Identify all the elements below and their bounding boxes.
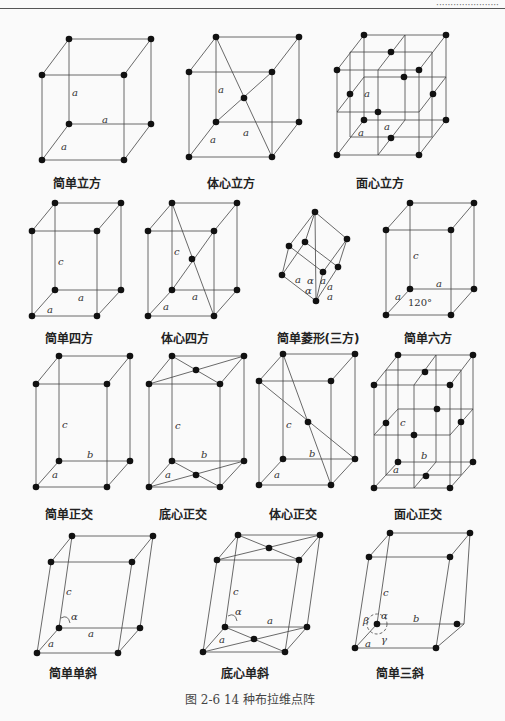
svg-text:β: β [362, 615, 369, 626]
svg-text:a: a [320, 275, 326, 286]
svg-text:c: c [175, 420, 181, 431]
svg-text:a: a [436, 278, 442, 289]
lattice-simple-monoclinic: c α a a [34, 533, 157, 657]
caption-simple-orthorhombic: 简单正交 [45, 505, 93, 522]
svg-text:a: a [165, 469, 171, 480]
lattice-simple-tetragonal: c a a [29, 200, 125, 320]
svg-text:a: a [358, 127, 364, 138]
svg-text:a: a [218, 84, 224, 95]
svg-text:b: b [421, 450, 427, 461]
svg-text:a: a [395, 291, 401, 302]
svg-text:a: a [267, 615, 273, 626]
svg-text:a: a [72, 87, 78, 98]
svg-text:a: a [48, 638, 54, 649]
lattice-base-centered-monoclinic: c α a a [200, 532, 324, 656]
svg-text:α: α [305, 285, 312, 296]
svg-text:a: a [47, 304, 53, 315]
svg-text:b: b [87, 449, 93, 460]
svg-text:a: a [393, 464, 399, 475]
lattice-body-centered-orthorhombic: c b a [256, 351, 359, 489]
svg-text:120°: 120° [408, 297, 432, 308]
lattice-rhombohedral: a α a a α a [279, 209, 351, 305]
lattice-face-centered-orthorhombic: c b a [371, 352, 477, 492]
svg-text:a: a [243, 127, 249, 138]
lattice-simple-cubic: a a a [39, 36, 155, 164]
svg-text:c: c [62, 419, 68, 430]
svg-text:a: a [327, 291, 333, 302]
svg-text:α: α [381, 610, 388, 621]
svg-text:a: a [88, 628, 94, 639]
svg-text:b: b [413, 613, 419, 624]
svg-text:c: c [286, 419, 292, 430]
bravais-lattices-figure: a a a a a a a a a c a a [0, 0, 505, 721]
svg-text:a: a [78, 292, 84, 303]
lattice-hexagonal: c a a 120° [383, 200, 478, 319]
svg-text:a: a [295, 274, 301, 285]
svg-text:a: a [102, 114, 108, 125]
svg-text:a: a [384, 121, 390, 132]
svg-text:c: c [400, 417, 406, 428]
svg-text:b: b [309, 448, 315, 459]
svg-text:c: c [58, 256, 64, 267]
figure-caption: 图 2-6 14 种布拉维点阵 [185, 690, 315, 707]
caption-simple-tetragonal: 简单四方 [45, 329, 93, 346]
svg-text:b: b [201, 449, 207, 460]
svg-text:γ: γ [381, 634, 387, 645]
svg-text:a: a [274, 469, 280, 480]
caption-triclinic: 简单三斜 [376, 664, 424, 681]
caption-face-centered-cubic: 面心立方 [356, 174, 404, 191]
caption-base-centered-orthorhombic: 底心正交 [159, 505, 207, 522]
svg-text:a: a [365, 638, 371, 649]
svg-text:a: a [219, 634, 225, 645]
svg-text:c: c [174, 246, 180, 257]
caption-body-centered-orthorhombic: 体心正交 [269, 505, 317, 522]
lattice-simple-orthorhombic: c b a [33, 353, 134, 491]
caption-body-centered-tetragonal: 体心四方 [161, 329, 209, 346]
svg-text:α: α [235, 606, 242, 617]
caption-hexagonal: 简单六方 [404, 329, 452, 346]
lattice-body-centered-tetragonal: c a a [145, 200, 241, 320]
svg-text:a: a [210, 134, 216, 145]
lattice-base-centered-orthorhombic: c b a [146, 353, 248, 491]
svg-text:c: c [413, 250, 419, 261]
svg-text:a: a [192, 291, 198, 302]
lattice-triclinic: c β α b a γ [352, 530, 474, 652]
caption-body-centered-cubic: 体心立方 [207, 174, 255, 191]
caption-simple-monoclinic: 简单单斜 [49, 664, 97, 681]
caption-face-centered-orthorhombic: 面心正交 [394, 505, 442, 522]
svg-text:c: c [66, 586, 72, 597]
lattice-face-centered-cubic: a a a [334, 32, 450, 159]
svg-text:a: a [52, 469, 58, 480]
lattice-body-centered-cubic: a a a [186, 34, 303, 161]
svg-text:a: a [61, 141, 67, 152]
svg-text:c: c [233, 586, 239, 597]
svg-text:c: c [383, 587, 389, 598]
svg-text:a: a [364, 88, 370, 99]
svg-text:a: a [163, 301, 169, 312]
svg-text:α: α [71, 611, 78, 622]
caption-base-centered-monoclinic: 底心单斜 [221, 664, 269, 681]
caption-rhombohedral: 简单菱形(三方) [277, 329, 360, 346]
caption-simple-cubic: 简单立方 [53, 174, 101, 191]
